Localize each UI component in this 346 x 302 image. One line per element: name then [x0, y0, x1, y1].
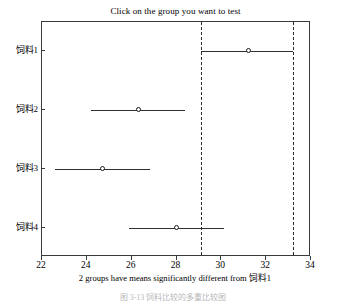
x-axis-tick-label: 24	[71, 260, 101, 271]
y-axis: 饲料1饲料2饲料3饲料4	[0, 21, 38, 256]
x-axis-tick-label: 22	[26, 260, 56, 271]
y-axis-tick-label[interactable]: 饲料4	[16, 222, 39, 232]
y-axis-tick-label[interactable]: 饲料2	[16, 104, 39, 114]
group-mean-marker[interactable]	[174, 225, 179, 230]
x-axis-tick-label: 30	[205, 260, 235, 271]
x-axis-tick-label: 34	[295, 260, 325, 271]
plot-area[interactable]	[41, 21, 310, 256]
group-mean-marker[interactable]	[136, 107, 141, 112]
group-mean-marker[interactable]	[100, 166, 105, 171]
y-axis-tick-label[interactable]: 饲料3	[16, 163, 39, 173]
figure-caption: 图 3-13 饲料比较的多重比较图	[0, 293, 346, 302]
y-axis-tick-mark	[41, 168, 45, 169]
chart-title: Click on the group you want to test	[41, 6, 310, 17]
x-axis-title: 2 groups have means significantly differ…	[20, 273, 330, 283]
x-axis-tick-label: 26	[116, 260, 146, 271]
x-axis-tick-label: 28	[161, 260, 191, 271]
reference-line-lower	[201, 22, 202, 255]
y-axis-tick-mark	[41, 227, 45, 228]
group-mean-marker[interactable]	[246, 48, 251, 53]
y-axis-tick-mark	[41, 50, 45, 51]
y-axis-tick-mark	[41, 109, 45, 110]
anova-multiple-comparison-figure: Click on the group you want to test 饲料1饲…	[0, 0, 346, 302]
x-axis-tick-label: 32	[250, 260, 280, 271]
y-axis-tick-label[interactable]: 饲料1	[16, 45, 39, 55]
reference-line-upper	[293, 22, 294, 255]
